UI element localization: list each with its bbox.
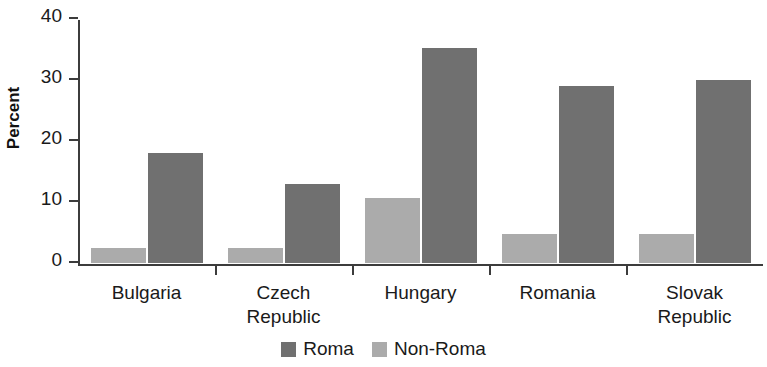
bar-chart: Percent 010203040 BulgariaCzech Republic… [0,0,767,367]
bar-roma [559,86,614,263]
legend-label: Roma [303,338,354,360]
y-axis-tick: 0 [69,261,78,263]
bar-group [215,19,352,263]
x-axis-tick [626,266,628,275]
y-axis-tick-label: 0 [51,249,62,271]
chart-legend: RomaNon-Roma [0,338,767,360]
y-axis-tick: 40 [69,17,78,19]
bar-roma [148,153,203,263]
y-axis-tick: 30 [69,78,78,80]
x-axis-tick [352,266,354,275]
y-axis-tick-mark [69,139,78,141]
bar-group [489,19,626,263]
legend-swatch-icon [281,342,296,357]
bar-non-roma [228,248,283,263]
y-axis-title: Percent [4,68,24,168]
bar-roma [285,184,340,263]
x-axis-line [78,264,763,266]
y-axis-tick-mark [69,78,78,80]
bar-group [78,19,215,263]
bar-non-roma [502,234,557,263]
bar-group [626,19,763,263]
y-axis-tick-label: 10 [41,188,62,210]
y-axis-tick-mark [69,17,78,19]
x-axis-tick [215,266,217,275]
legend-item: Non-Roma [372,338,486,360]
x-axis-label: Slovak Republic [626,281,763,329]
bar-non-roma [91,248,146,263]
y-axis-tick-label: 40 [41,5,62,27]
y-axis-tick-mark [69,200,78,202]
plot-area: 010203040 BulgariaCzech RepublicHungaryR… [78,20,763,265]
x-axis-tick [489,266,491,275]
bar-group [352,19,489,263]
bar-roma [696,80,751,263]
bar-non-roma [639,234,694,263]
legend-label: Non-Roma [394,338,486,360]
y-axis-tick: 10 [69,200,78,202]
x-axis-label: Hungary [352,281,489,305]
legend-swatch-icon [372,342,387,357]
legend-item: Roma [281,338,354,360]
y-axis-tick-mark [69,261,78,263]
bar-non-roma [365,198,420,263]
bar-roma [422,48,477,263]
x-axis-label: Bulgaria [78,281,215,305]
x-axis-label: Romania [489,281,626,305]
y-axis-tick: 20 [69,139,78,141]
y-axis-tick-label: 30 [41,66,62,88]
x-axis-label: Czech Republic [215,281,352,329]
y-axis-tick-label: 20 [41,127,62,149]
